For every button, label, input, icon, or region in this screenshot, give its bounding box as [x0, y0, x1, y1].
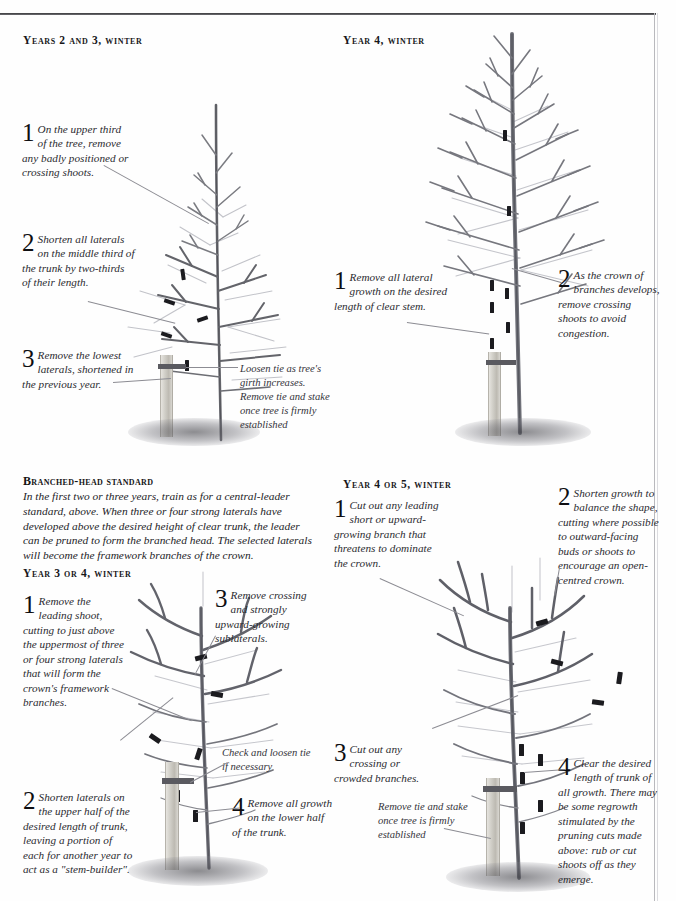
tree-illustration-central-leader-mature: [392, 18, 642, 438]
pruning-cut-mark: [519, 744, 524, 756]
annotation-number: 2: [558, 487, 574, 508]
annotation-text: Shorten all laterals on the middle third…: [22, 233, 135, 288]
pruning-cut-mark: [520, 772, 525, 784]
note-text: Remove tie and stake once tree is firmly…: [378, 801, 468, 840]
ground-shadow: [455, 418, 591, 446]
leader-line: [186, 367, 238, 368]
pruning-cut-mark: [490, 302, 494, 313]
annotation-number: 1: [334, 271, 350, 292]
pruning-cut-mark: [490, 280, 494, 291]
annotation-text: Remove all growth on the lower half of t…: [232, 797, 332, 838]
heading-text: Branched-head standard: [23, 474, 153, 488]
annotation-text: Cut out any leading short or upward-grow…: [334, 499, 439, 569]
annotation-1: 1 Remove the leading shoot, cutting to j…: [23, 594, 127, 710]
annotation-3: 3 Remove the lowest laterals, shortened …: [22, 348, 142, 391]
annotation-number: 2: [558, 269, 574, 290]
ground-shadow: [128, 856, 268, 886]
annotation-number: 3: [215, 589, 231, 610]
panel-heading-year-4-or-5: Year 4 or 5, winter: [343, 478, 451, 490]
annotation-number: 1: [334, 499, 350, 520]
tree-tie: [483, 786, 517, 792]
panel-heading-years-2-3: Years 2 and 3, winter: [23, 34, 142, 46]
annotation-text: Remove the lowest laterals, shortened in…: [22, 349, 133, 390]
note-text: Check and loosen tie if necessary: [222, 747, 311, 772]
pruning-cut-mark: [490, 338, 494, 349]
note-check-loosen-tie: Check and loosen tie if necessary: [222, 746, 318, 774]
annotation-number: 1: [23, 595, 39, 616]
note-text: Loosen tie as tree's girth increases. Re…: [240, 363, 330, 430]
annotation-text: Remove the leading shoot, cutting to jus…: [23, 595, 124, 708]
annotation-number: 1: [22, 123, 38, 144]
annotation-text: As the crown of branches develops, remov…: [558, 269, 660, 339]
pruning-cut-mark: [538, 800, 543, 812]
annotation-text: Shorten laterals on the upper half of th…: [23, 791, 132, 875]
annotation-number: 3: [22, 349, 38, 370]
tree-tie: [158, 364, 186, 369]
annotation-2: 2 Shorten laterals on the upper half of …: [23, 790, 135, 877]
section-heading-branched-head: Branched-head standard: [23, 474, 153, 489]
pruning-cut-mark: [506, 322, 510, 333]
annotation-4: 4 Remove all growth on the lower half of…: [232, 796, 332, 839]
heading-text: Years 2 and 3, winter: [23, 34, 142, 46]
annotation-number: 3: [334, 743, 350, 764]
tree-tie: [486, 360, 516, 365]
illustration-page: Years 2 and 3, winter: [0, 0, 676, 901]
annotation-number: 2: [22, 233, 38, 254]
note-remove-tie-stake: Remove tie and stake once tree is firmly…: [378, 800, 474, 842]
heading-text: Year 4 or 5, winter: [343, 478, 451, 490]
pruning-cut-mark: [503, 130, 507, 141]
annotation-2: 2 As the crown of branches develops, rem…: [558, 268, 662, 340]
annotation-1: 1 Remove all lateral growth on the desir…: [334, 270, 452, 313]
annotation-text: Shorten growth to balance the shape, cut…: [558, 487, 659, 586]
note-loosen-tie: Loosen tie as tree's girth increases. Re…: [240, 362, 338, 432]
annotation-text: Clear the desired length of trunk of all…: [558, 757, 657, 885]
annotation-text: Remove all lateral growth on the desired…: [334, 271, 447, 312]
pruning-cut-mark: [538, 754, 543, 766]
annotation-2: 2 Shorten all laterals on the middle thi…: [22, 232, 135, 290]
annotation-number: 4: [558, 757, 574, 778]
annotation-3: 3 Remove crossing and strongly upward-gr…: [215, 588, 320, 646]
annotation-1: 1 Cut out any leading short or upward-gr…: [334, 498, 440, 570]
annotation-2: 2 Shorten growth to balance the shape, c…: [558, 486, 662, 587]
pruning-cut-mark: [507, 206, 511, 216]
annotation-4: 4 Clear the desired length of trunk of a…: [558, 756, 662, 886]
annotation-number: 2: [23, 791, 39, 812]
pruning-cut-mark: [505, 288, 509, 299]
pruning-cut-mark: [520, 822, 525, 834]
section-body-text: In the first two or three years, train a…: [23, 489, 315, 563]
body-text: In the first two or three years, train a…: [23, 490, 312, 561]
top-rule: [0, 13, 656, 15]
annotation-3: 3 Cut out any crossing or crowded branch…: [334, 742, 438, 785]
tree-stake: [486, 778, 500, 876]
